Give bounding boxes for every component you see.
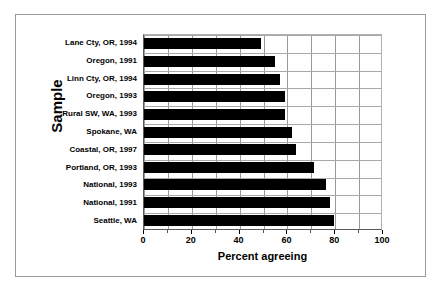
x-axis-major-tick <box>334 230 335 234</box>
bar <box>144 162 314 173</box>
bar <box>144 144 296 155</box>
y-axis-tick-label: Seattle, WA <box>24 212 141 230</box>
bar <box>144 56 275 67</box>
x-axis-tick-labels: 020406080100 <box>143 235 382 249</box>
bar-row <box>144 53 381 71</box>
y-axis-tick-labels: Lane Cty, OR, 1994Oregon, 1991Linn Cty, … <box>24 34 141 230</box>
x-axis-minor-tick <box>215 230 216 233</box>
x-axis-major-tick <box>239 230 240 234</box>
x-axis-major-tick <box>286 230 287 234</box>
y-axis-tick-label: National, 1991 <box>24 194 141 212</box>
y-axis-tick-label: National, 1993 <box>24 177 141 195</box>
bar-row <box>144 176 381 194</box>
plot-area <box>143 34 382 230</box>
bar <box>144 127 292 138</box>
bar <box>144 197 330 208</box>
bar-row <box>144 194 381 212</box>
bar <box>144 109 285 120</box>
x-axis-tick-label: 40 <box>234 235 244 245</box>
x-axis-minor-tick <box>263 230 264 233</box>
bar <box>144 91 285 102</box>
bar-row <box>144 123 381 141</box>
bar-row <box>144 70 381 88</box>
x-axis-minor-tick <box>310 230 311 233</box>
bar-chart-figure: Sample Lane Cty, OR, 1994Oregon, 1991Lin… <box>0 0 443 293</box>
bar <box>144 38 261 49</box>
x-axis-minor-tick <box>358 230 359 233</box>
bar-row <box>144 88 381 106</box>
x-axis-tick-label: 0 <box>140 235 145 245</box>
x-axis-tick-label: 60 <box>281 235 291 245</box>
y-axis-tick-label: Oregon, 1991 <box>24 52 141 70</box>
y-axis-tick-label: Oregon, 1993 <box>24 87 141 105</box>
y-axis-tick-label: Rural SW, WA, 1993 <box>24 105 141 123</box>
x-axis-tick-label: 80 <box>329 235 339 245</box>
x-axis-major-tick <box>143 230 144 234</box>
bar-row <box>144 158 381 176</box>
bar-row <box>144 35 381 53</box>
x-axis-tick-label: 20 <box>186 235 196 245</box>
bar-row <box>144 106 381 124</box>
bar <box>144 215 334 226</box>
y-axis-tick-label: Portland, OR, 1993 <box>24 159 141 177</box>
y-axis-tick-label: Linn Cty, OR, 1994 <box>24 70 141 88</box>
x-axis-title: Percent agreeing <box>143 250 382 262</box>
x-axis-major-tick <box>191 230 192 234</box>
bar-series <box>144 35 381 229</box>
x-axis-minor-tick <box>167 230 168 233</box>
bar <box>144 179 326 190</box>
x-axis-major-tick <box>382 230 383 234</box>
y-axis-tick-label: Spokane, WA <box>24 123 141 141</box>
bar <box>144 74 280 85</box>
x-axis-tick-label: 100 <box>374 235 389 245</box>
y-axis-tick-label: Lane Cty, OR, 1994 <box>24 34 141 52</box>
bar-row <box>144 211 381 229</box>
y-axis-tick-label: Coastal, OR, 1997 <box>24 141 141 159</box>
bar-row <box>144 141 381 159</box>
